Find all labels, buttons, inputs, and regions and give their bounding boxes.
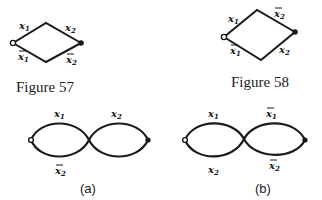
fig58-label-not-x2: x2 — [273, 8, 285, 21]
fig58-label-x1: x1 — [227, 13, 239, 26]
figure-57: x1 x2 x1 x2 Figure 57 — [10, 20, 83, 95]
fig-a-left-bottom-arc — [31, 140, 89, 157]
fig57-label-not-x2: x2 — [65, 54, 77, 67]
filled-terminal-icon — [302, 137, 307, 142]
filled-terminal-icon — [145, 137, 150, 142]
fig57-label-x1: x1 — [18, 20, 30, 33]
fig58-caption: Figure 58 — [231, 74, 289, 90]
fig-a-caption: (a) — [80, 181, 96, 196]
fig-a-label-x1: x1 — [53, 108, 65, 121]
fig-b-right-top-arc — [244, 123, 305, 140]
fig58-label-x2: x2 — [278, 44, 290, 57]
fig57-caption: Figure 57 — [16, 79, 74, 95]
fig-a-label-x2: x2 — [110, 108, 122, 121]
fig-b-left-bottom-arc — [185, 139, 244, 156]
fig-a-left-top-arc — [31, 124, 89, 141]
open-terminal-icon — [183, 138, 188, 143]
figure-b: x1 x1 x2 x2 (b) — [183, 108, 308, 196]
open-terminal-icon — [29, 138, 34, 143]
fig-b-caption: (b) — [255, 181, 271, 196]
fig-b-label-x1: x1 — [207, 108, 219, 121]
switching-circuit-diagrams: x1 x2 x1 x2 Figure 57 x1 x2 x1 x2 Figure… — [0, 0, 322, 200]
fig57-label-not-x1: x1 — [17, 51, 29, 64]
open-terminal-icon — [221, 34, 226, 39]
fig-b-left-top-arc — [185, 123, 244, 140]
fig-a-right-top-arc — [89, 124, 148, 141]
fig-b-label-x2: x2 — [207, 164, 219, 177]
filled-terminal-icon — [292, 29, 298, 35]
fig-a-right-bottom-arc — [89, 140, 148, 157]
open-terminal-icon — [10, 40, 15, 45]
fig57-label-x2: x2 — [64, 22, 76, 35]
fig-a-label-not-x2: x2 — [54, 165, 66, 178]
fig-b-label-not-x1: x1 — [265, 108, 277, 121]
fig-b-right-bottom-arc — [244, 139, 305, 155]
figure-a: x1 x2 x2 (a) — [29, 108, 151, 196]
figure-58: x1 x2 x1 x2 Figure 58 — [221, 8, 297, 90]
fig-b-label-not-x2: x2 — [268, 160, 280, 173]
filled-terminal-icon — [78, 40, 84, 46]
